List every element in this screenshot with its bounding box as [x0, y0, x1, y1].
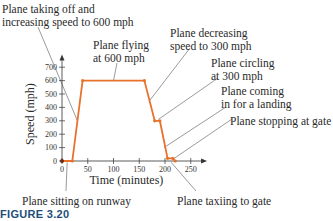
figure-caption: FIGURE 3.20 [0, 208, 69, 220]
annotation-runway: Plane sitting on runway [22, 195, 131, 208]
annotation-stopping: Plane stopping at gate [230, 115, 331, 128]
data-point [158, 119, 161, 122]
leader-line [150, 48, 190, 101]
annotation-circling: Plane circling at 300 mph [211, 57, 275, 82]
annotation-text: in for a landing [221, 98, 292, 111]
y-tick-label: 700 [45, 63, 57, 72]
y-axis-arrow-icon [60, 55, 65, 61]
y-tick-label: 200 [45, 130, 57, 139]
annotation-text: at 300 mph [211, 70, 275, 83]
origin-point [60, 159, 64, 163]
data-point [153, 119, 156, 122]
x-axis-arrow-icon [201, 159, 207, 164]
annotation-text: Plane decreasing [170, 27, 251, 40]
y-tick-label: 400 [45, 103, 57, 112]
annotation-text: speed to 300 mph [170, 40, 251, 53]
annotation-flying: Plane flying at 600 mph [93, 39, 149, 64]
annotation-text: increasing speed to 600 mph [2, 16, 134, 29]
annotation-text: Plane flying [93, 39, 149, 52]
annotation-text: Plane coming [221, 85, 292, 98]
x-tick-label: 0 [60, 165, 64, 174]
y-tick-label: 0 [53, 157, 57, 166]
annotation-landing: Plane coming in for a landing [221, 85, 292, 110]
annotation-takeoff: Plane taking off and increasing speed to… [2, 3, 134, 28]
data-point [71, 159, 74, 162]
leader-line [66, 162, 67, 191]
speed-time-chart: 0501001502002500100200300400500600700Tim… [0, 0, 333, 221]
data-point [143, 79, 146, 82]
annotation-text: Plane taking off and [2, 3, 134, 16]
leader-line [38, 27, 77, 121]
leader-line [114, 63, 118, 81]
x-tick-label: 250 [185, 165, 197, 174]
x-axis-label: Time (minutes) [89, 173, 163, 187]
annotation-taxiing: Plane taxiing to gate [177, 195, 271, 208]
data-point [171, 157, 174, 160]
y-tick-label: 500 [45, 90, 57, 99]
y-axis-label: Speed (mph) [23, 83, 37, 145]
data-point [81, 79, 84, 82]
annotation-decreasing: Plane decreasing speed to 300 mph [170, 27, 251, 52]
leader-line [164, 107, 226, 148]
leader-line [173, 119, 232, 159]
data-point [166, 157, 169, 160]
data-point [174, 159, 177, 162]
annotation-text: at 600 mph [93, 52, 149, 65]
y-tick-label: 600 [45, 76, 57, 85]
y-tick-label: 300 [45, 116, 57, 125]
annotation-text: Plane circling [211, 57, 275, 70]
y-tick-label: 100 [45, 143, 57, 152]
leader-line [158, 78, 218, 119]
